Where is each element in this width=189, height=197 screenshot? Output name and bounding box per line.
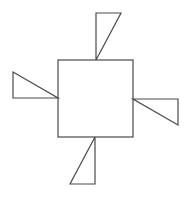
right-triangle — [133, 99, 178, 125]
central-square — [58, 60, 133, 137]
bottom-triangle — [70, 137, 95, 184]
left-triangle — [13, 72, 58, 98]
pinwheel-diagram — [0, 0, 189, 197]
top-triangle — [96, 13, 121, 60]
